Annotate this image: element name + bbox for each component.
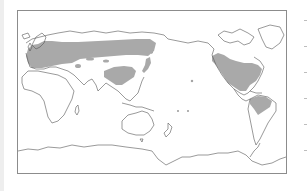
right-tick-marks	[304, 20, 307, 170]
shaded-sakhalin	[151, 46, 153, 54]
tick-mark	[304, 124, 307, 125]
tick-mark	[304, 98, 307, 99]
shaded-central-asia-3	[103, 60, 109, 63]
shaded-central-asia-2	[86, 58, 94, 61]
island-hawaii	[191, 80, 193, 82]
coast-antarctic-peninsula	[250, 143, 260, 157]
coast-australia	[122, 111, 154, 135]
coast-iceland	[22, 33, 30, 39]
coast-alaska	[168, 39, 214, 55]
coast-new-zealand	[164, 123, 172, 137]
coast-indonesia	[122, 103, 154, 111]
shaded-central-asia-1	[75, 64, 81, 68]
coast-antarctica	[18, 145, 286, 165]
coast-madagascar	[75, 105, 79, 115]
island-pacific-2	[187, 110, 188, 111]
tick-mark	[304, 20, 307, 21]
tick-mark	[304, 46, 307, 47]
shaded-europe-eurasia	[26, 39, 156, 68]
coast-caribbean	[250, 91, 262, 93]
coast-tasmania	[140, 139, 143, 142]
coast-canadian-arctic	[218, 29, 254, 45]
shaded-south-america	[250, 96, 272, 115]
coast-africa	[22, 71, 74, 123]
shaded-east-china	[104, 66, 136, 85]
left-margin-strip	[0, 0, 4, 191]
shaded-regions	[26, 39, 272, 115]
tick-mark	[304, 72, 307, 73]
island-pacific-1	[177, 110, 178, 111]
tick-mark	[304, 150, 307, 151]
shaded-north-america	[212, 53, 262, 91]
shaded-japan	[142, 57, 151, 73]
map-frame	[17, 10, 287, 174]
world-map	[18, 11, 286, 173]
coast-greenland	[258, 25, 284, 49]
